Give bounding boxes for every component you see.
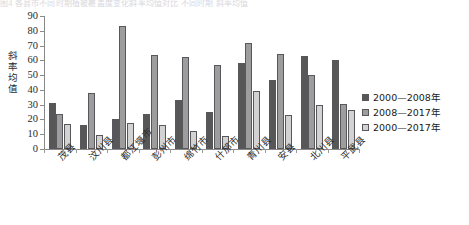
y-axis-title: 斜率均值	[6, 50, 19, 94]
bar	[308, 75, 315, 149]
y-axis-title-char: 率	[6, 61, 19, 72]
bar	[245, 43, 252, 149]
bar-group	[44, 16, 76, 149]
legend-item: 2000—2008年	[362, 90, 441, 105]
cutoff-caption-strip: 图4 各县市不同时期植被覆盖度变化斜率均值对比 不同时期 斜率均值	[0, 0, 469, 7]
y-axis-tick-label: 80	[28, 26, 39, 37]
bar-group	[107, 16, 139, 149]
bar-group	[202, 16, 234, 149]
y-axis-tick-label: 10	[28, 129, 39, 140]
legend-label: 2000—2008年	[373, 90, 441, 105]
x-axis-tick	[139, 149, 140, 153]
bar	[277, 54, 284, 149]
x-axis-tick	[76, 149, 77, 153]
y-axis-tick-label: 0	[33, 144, 38, 155]
y-axis-tick-label: 60	[28, 55, 39, 66]
bar	[88, 93, 95, 149]
legend-label: 2008—2017年	[373, 105, 441, 120]
bar	[301, 56, 308, 149]
bar	[238, 63, 245, 149]
chart-legend: 2000—2008年2008—2017年2000—2017年	[362, 90, 441, 135]
y-axis-tick-label: 90	[28, 11, 39, 22]
bar-group	[233, 16, 265, 149]
x-axis-tick	[170, 149, 171, 153]
x-axis-tick	[44, 149, 45, 153]
legend-label: 2000—2017年	[373, 120, 441, 135]
x-axis-tick	[265, 149, 266, 153]
legend-item: 2008—2017年	[362, 105, 441, 120]
bar-group	[265, 16, 297, 149]
y-axis-tick-label: 70	[28, 40, 39, 51]
y-axis-title-char: 值	[6, 83, 19, 94]
legend-swatch	[362, 124, 369, 131]
y-axis-tick-label: 50	[28, 70, 39, 81]
bar	[119, 26, 126, 149]
bar	[340, 104, 347, 149]
y-axis-tick-label: 20	[28, 114, 39, 125]
legend-item: 2000—2017年	[362, 120, 441, 135]
y-axis-title-char: 均	[6, 72, 19, 83]
y-axis-tick-label: 30	[28, 99, 39, 110]
bar	[332, 60, 339, 149]
plot-area: 0102030405060708090 茂县汶川县都江堰市彭州市绵竹市什邡市青川…	[44, 16, 359, 149]
x-axis-tick	[359, 149, 360, 153]
y-axis-tick-label: 40	[28, 85, 39, 96]
y-axis-title-char: 斜	[6, 50, 19, 61]
bar	[80, 125, 87, 149]
bar	[214, 65, 221, 149]
legend-swatch	[362, 94, 369, 101]
bar	[56, 114, 63, 149]
x-axis-tick	[296, 149, 297, 153]
x-axis-tick	[107, 149, 108, 153]
bar	[182, 57, 189, 149]
bar-chart-figure: 图4 各县市不同时期植被覆盖度变化斜率均值对比 不同时期 斜率均值 斜率均值 0…	[0, 0, 469, 225]
bar-group	[328, 16, 360, 149]
bar	[112, 119, 119, 149]
x-axis-tick	[233, 149, 234, 153]
bar-group	[170, 16, 202, 149]
bar-group	[296, 16, 328, 149]
bar-group	[76, 16, 108, 149]
x-axis-tick	[202, 149, 203, 153]
bar	[49, 103, 56, 149]
x-axis-tick	[328, 149, 329, 153]
legend-swatch	[362, 109, 369, 116]
